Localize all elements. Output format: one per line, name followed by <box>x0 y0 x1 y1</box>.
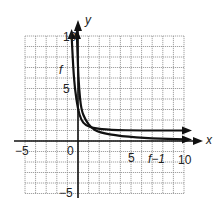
tick-x-10: 10 <box>178 153 192 167</box>
axes <box>14 20 203 198</box>
graph: x y −5 0 5 10 10 5 −5 f f−1 <box>0 0 217 207</box>
curve-f-inverse <box>77 36 184 139</box>
tick-x-neg5: −5 <box>15 144 29 158</box>
curve-label-f: f <box>59 63 64 77</box>
tick-origin: 0 <box>67 144 74 158</box>
y-axis-label: y <box>84 13 92 27</box>
tick-y-5: 5 <box>63 82 70 96</box>
tick-y-10: 10 <box>63 30 77 44</box>
grid <box>25 36 184 194</box>
arrowhead-icon <box>182 135 192 143</box>
tick-x-5: 5 <box>128 151 135 165</box>
tick-y-neg5: −5 <box>59 186 73 200</box>
curve-label-f-inverse: f−1 <box>148 152 165 166</box>
x-axis-arrow-icon <box>193 137 203 145</box>
x-axis-label: x <box>205 133 213 147</box>
arrowhead-icon <box>182 127 192 135</box>
